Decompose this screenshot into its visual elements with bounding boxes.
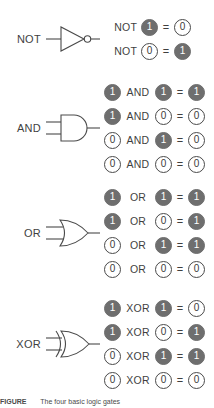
operand-b-bit: 0: [155, 324, 172, 341]
not-truth-table: NOT 1 = 0 NOT 0 = 1: [104, 15, 214, 63]
result-bit: 1: [188, 324, 205, 341]
operand-a-bit: 0: [104, 237, 121, 254]
equals-sign: =: [172, 302, 188, 314]
operator-label: AND: [121, 134, 155, 146]
equals-sign: =: [172, 215, 188, 227]
result-bit: 0: [174, 19, 191, 36]
operand-b-bit: 1: [155, 237, 172, 254]
operand-a-bit: 0: [104, 372, 121, 389]
table-row: 1 XOR 0 = 1: [104, 320, 214, 344]
operand-a-bit: 1: [104, 213, 121, 230]
operand-a-bit: 1: [104, 108, 121, 125]
operator-label: XOR: [121, 302, 155, 314]
equals-sign: =: [172, 374, 188, 386]
operand-a-bit: 0: [104, 348, 121, 365]
operator-label: OR: [121, 239, 155, 251]
table-row: 1 OR 1 = 1: [104, 185, 214, 209]
and-symbol-column: AND: [0, 108, 104, 148]
table-row: NOT 1 = 0: [104, 15, 214, 39]
operator-label: OR: [121, 215, 155, 227]
table-row: NOT 0 = 1: [104, 39, 214, 63]
operand-b-bit: 0: [155, 261, 172, 278]
gate-label-xor: XOR: [16, 338, 41, 350]
equals-sign: =: [158, 21, 174, 33]
not-symbol-column: NOT: [0, 22, 104, 56]
operator-label: NOT: [104, 21, 141, 33]
not-gate-icon: [44, 22, 102, 56]
operand-b-bit: 1: [155, 300, 172, 317]
or-gate-icon: [44, 213, 102, 253]
result-bit: 0: [188, 108, 205, 125]
result-bit: 0: [188, 372, 205, 389]
equals-sign: =: [172, 86, 188, 98]
operand-b-bit: 1: [155, 189, 172, 206]
xor-truth-table: 1 XOR 1 = 0 1 XOR 0 = 1 0 XOR 1 = 1 0: [104, 296, 214, 392]
operand-b-bit: 1: [155, 84, 172, 101]
table-row: 0 AND 0 = 0: [104, 152, 214, 176]
equals-sign: =: [172, 191, 188, 203]
equals-sign: =: [172, 263, 188, 275]
table-row: 1 AND 0 = 0: [104, 104, 214, 128]
figure-caption-text: The four basic logic gates: [40, 398, 120, 405]
table-row: 1 AND 1 = 1: [104, 80, 214, 104]
gate-block-and: AND 1 AND 1 = 1 1 AND 0: [0, 80, 214, 176]
operand-a-bit: 1: [104, 324, 121, 341]
or-truth-table: 1 OR 1 = 1 1 OR 0 = 1 0 OR 1 = 1 0: [104, 185, 214, 281]
table-row: 0 OR 0 = 0: [104, 257, 214, 281]
result-bit: 1: [188, 189, 205, 206]
result-bit: 1: [174, 43, 191, 60]
figure-caption: FIGURE The four basic logic gates: [0, 398, 214, 408]
table-row: 0 XOR 0 = 0: [104, 368, 214, 392]
equals-sign: =: [172, 158, 188, 170]
result-bit: 1: [188, 348, 205, 365]
operand-b-bit: 0: [155, 108, 172, 125]
operator-label: XOR: [121, 350, 155, 362]
operand-a-bit: 1: [104, 84, 121, 101]
operand-b-bit: 0: [155, 213, 172, 230]
logic-gates-figure: NOT NOT 1 = 0 NOT 0 = 1: [0, 0, 214, 408]
table-row: 1 XOR 1 = 0: [104, 296, 214, 320]
or-symbol-column: OR: [0, 213, 104, 253]
operator-label: OR: [121, 191, 155, 203]
table-row: 0 AND 1 = 0: [104, 128, 214, 152]
gate-label-and: AND: [17, 122, 41, 134]
result-bit: 0: [188, 132, 205, 149]
gate-block-xor: XOR 1 XOR 1 = 0 1 XOR: [0, 296, 214, 392]
operand-b-bit: 0: [155, 156, 172, 173]
and-gate-icon: [44, 108, 102, 148]
equals-sign: =: [172, 134, 188, 146]
operand-b-bit: 1: [155, 348, 172, 365]
result-bit: 1: [188, 213, 205, 230]
operand-a-bit: 0: [104, 261, 121, 278]
operand-a-bit: 1: [141, 19, 158, 36]
xor-gate-icon: [44, 324, 102, 364]
equals-sign: =: [172, 110, 188, 122]
operator-label: AND: [121, 110, 155, 122]
operand-b-bit: 1: [155, 132, 172, 149]
xor-symbol-column: XOR: [0, 324, 104, 364]
equals-sign: =: [172, 239, 188, 251]
table-row: 0 OR 1 = 1: [104, 233, 214, 257]
figure-caption-label: FIGURE: [0, 398, 26, 405]
operator-label: AND: [121, 158, 155, 170]
result-bit: 1: [188, 84, 205, 101]
equals-sign: =: [172, 326, 188, 338]
result-bit: 1: [188, 237, 205, 254]
gate-block-or: OR 1 OR 1 = 1 1 OR 0: [0, 185, 214, 281]
result-bit: 0: [188, 156, 205, 173]
operand-a-bit: 0: [104, 132, 121, 149]
operator-label: NOT: [104, 45, 141, 57]
result-bit: 0: [188, 300, 205, 317]
equals-sign: =: [158, 45, 174, 57]
operand-b-bit: 0: [155, 372, 172, 389]
operator-label: XOR: [121, 326, 155, 338]
operand-a-bit: 0: [104, 156, 121, 173]
operator-label: XOR: [121, 374, 155, 386]
and-truth-table: 1 AND 1 = 1 1 AND 0 = 0 0 AND 1 = 0 0: [104, 80, 214, 176]
gate-label-or: OR: [24, 227, 41, 239]
operand-a-bit: 0: [141, 43, 158, 60]
operand-a-bit: 1: [104, 300, 121, 317]
gate-label-not: NOT: [17, 33, 41, 45]
result-bit: 0: [188, 261, 205, 278]
operator-label: AND: [121, 86, 155, 98]
